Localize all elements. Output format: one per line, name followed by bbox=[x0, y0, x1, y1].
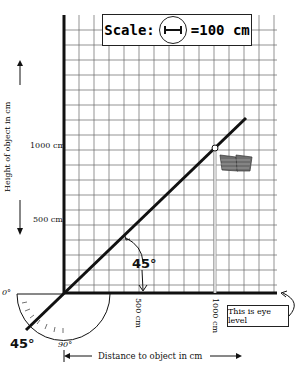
protractor-zero-label: 0° bbox=[2, 288, 11, 297]
y-axis-label: Height of object in cm bbox=[3, 102, 12, 192]
circle-with-bar-icon bbox=[159, 16, 187, 44]
eye-level-label: This is eye level bbox=[228, 307, 288, 325]
x-axis-label: Distance to object in cm bbox=[98, 351, 202, 361]
flag-icon bbox=[220, 155, 252, 171]
scale-legend: Scale: =100 cm bbox=[102, 14, 252, 46]
y-tick-500: 500 cm bbox=[33, 215, 63, 224]
protractor-90-label: 90° bbox=[58, 340, 72, 349]
x-tick-500: 500 cm bbox=[134, 298, 143, 328]
y-tick-1000: 1000 cm bbox=[30, 141, 65, 150]
grid bbox=[64, 15, 277, 293]
scale-label: Scale: bbox=[104, 22, 155, 38]
x-tick-1000: 1000 cm bbox=[211, 298, 220, 333]
scale-value: =100 cm bbox=[191, 22, 250, 38]
angle-label-45: 45° bbox=[132, 256, 157, 271]
flagpole-top bbox=[212, 145, 218, 151]
eye-level-callout: This is eye level bbox=[227, 305, 289, 327]
protractor-45-label: 45° bbox=[10, 336, 35, 351]
